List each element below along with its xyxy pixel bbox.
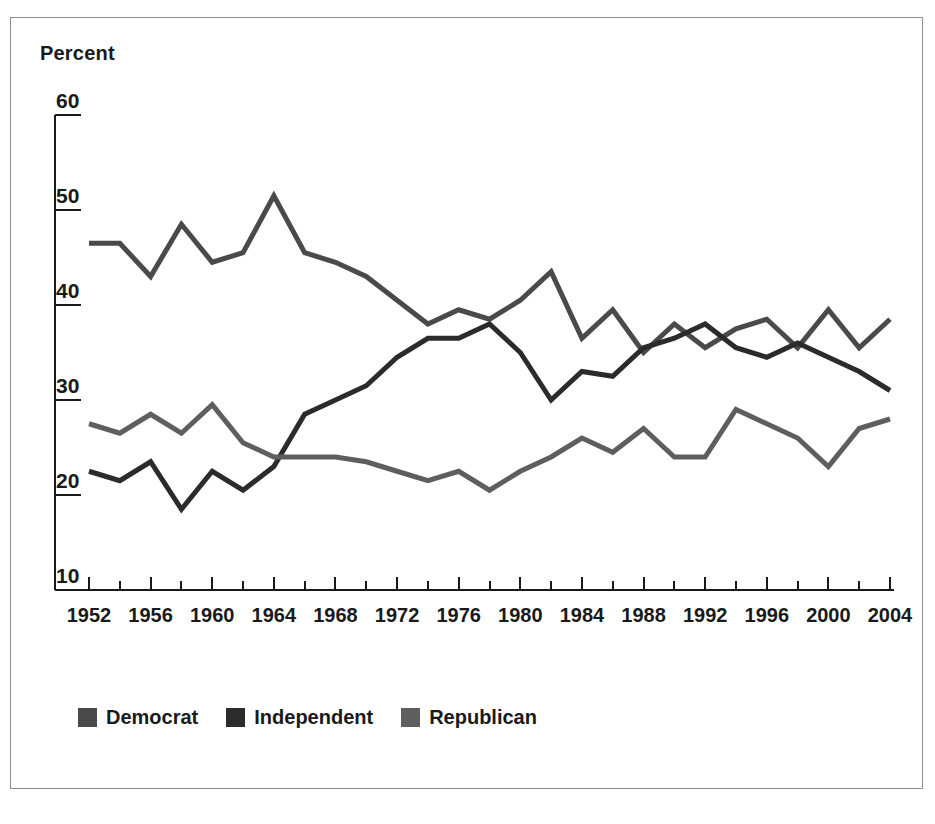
axis-lines bbox=[55, 115, 894, 590]
x-tick-marks bbox=[89, 577, 890, 590]
series-line-independent bbox=[89, 324, 890, 509]
y-tick-label-60: 60 bbox=[56, 89, 79, 113]
line-chart-plot bbox=[0, 0, 935, 824]
legend-item-democrat[interactable]: Democrat bbox=[78, 706, 198, 729]
legend-item-independent[interactable]: Independent bbox=[226, 706, 373, 729]
x-tick-label-1984: 1984 bbox=[560, 604, 605, 627]
data-series-lines bbox=[89, 196, 890, 510]
y-tick-label-30: 30 bbox=[56, 374, 79, 398]
legend-label-democrat: Democrat bbox=[106, 706, 198, 729]
x-tick-label-1972: 1972 bbox=[375, 604, 420, 627]
y-tick-label-50: 50 bbox=[56, 184, 79, 208]
legend-swatch-democrat bbox=[78, 708, 97, 727]
x-tick-label-1996: 1996 bbox=[745, 604, 790, 627]
x-tick-label-1952: 1952 bbox=[67, 604, 112, 627]
legend-label-independent: Independent bbox=[254, 706, 373, 729]
x-tick-label-1992: 1992 bbox=[683, 604, 728, 627]
x-tick-label-1988: 1988 bbox=[621, 604, 666, 627]
x-tick-label-1968: 1968 bbox=[313, 604, 358, 627]
legend-swatch-republican bbox=[401, 708, 420, 727]
x-tick-label-2000: 2000 bbox=[806, 604, 851, 627]
chart-figure: Percent 605040302010 1952195619601964196… bbox=[0, 0, 935, 824]
x-tick-label-1960: 1960 bbox=[190, 604, 235, 627]
chart-legend: DemocratIndependentRepublican bbox=[78, 706, 537, 729]
x-tick-label-1964: 1964 bbox=[252, 604, 297, 627]
legend-swatch-independent bbox=[226, 708, 245, 727]
x-tick-label-2004: 2004 bbox=[868, 604, 913, 627]
legend-item-republican[interactable]: Republican bbox=[401, 706, 537, 729]
legend-label-republican: Republican bbox=[429, 706, 537, 729]
y-tick-label-10: 10 bbox=[56, 564, 79, 588]
x-tick-label-1980: 1980 bbox=[498, 604, 543, 627]
y-tick-label-40: 40 bbox=[56, 279, 79, 303]
x-tick-label-1956: 1956 bbox=[128, 604, 173, 627]
x-tick-label-1976: 1976 bbox=[436, 604, 481, 627]
series-line-democrat bbox=[89, 196, 890, 353]
y-tick-label-20: 20 bbox=[56, 469, 79, 493]
